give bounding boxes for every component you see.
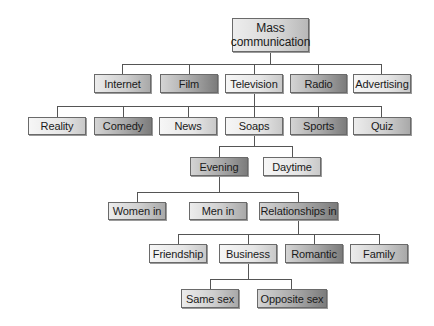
node-friendship: Friendship — [149, 244, 207, 263]
mass-communication-tree: Mass communication Internet Film Televis… — [0, 0, 434, 326]
node-film: Film — [160, 74, 218, 93]
node-men-in: Men in — [189, 202, 247, 220]
node-quiz: Quiz — [353, 117, 411, 135]
node-romantic: Romantic — [285, 244, 343, 263]
node-mass-communication: Mass communication — [232, 18, 309, 52]
node-business: Business — [219, 244, 277, 263]
node-same-sex: Same sex — [181, 289, 239, 308]
node-sports: Sports — [290, 117, 347, 135]
node-women-in: Women in — [108, 202, 166, 220]
node-soaps: Soaps — [225, 117, 283, 135]
node-television: Television — [225, 74, 283, 93]
node-comedy: Comedy — [94, 117, 152, 135]
node-internet: Internet — [94, 74, 151, 93]
node-advertising: Advertising — [353, 74, 411, 93]
node-daytime: Daytime — [263, 157, 321, 176]
node-relationships-in: Relationships in — [259, 202, 338, 220]
node-evening: Evening — [190, 157, 248, 176]
node-reality: Reality — [28, 117, 86, 135]
node-news: News — [159, 117, 217, 135]
node-radio: Radio — [290, 74, 347, 93]
node-opposite-sex: Opposite sex — [257, 289, 327, 308]
node-family: Family — [350, 244, 408, 263]
